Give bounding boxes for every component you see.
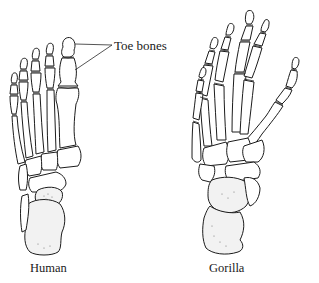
human-tarsals [19,146,82,255]
human-caption: Human [30,262,67,275]
foot-comparison-figure: Toe bones Human Gorilla [0,0,319,283]
gorilla-foot-skeleton-illustration [192,10,299,254]
human-toe-phalanges [10,37,79,164]
gorilla-caption: Gorilla [209,262,244,275]
toe-bones-pointer-lines [75,44,112,70]
toe-bones-label: Toe bones [114,39,167,52]
